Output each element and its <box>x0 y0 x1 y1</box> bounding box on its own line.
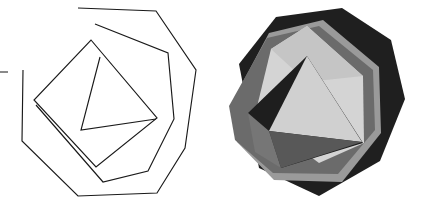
outer-heptagon <box>22 8 196 196</box>
polygon-figure-pair <box>0 0 423 218</box>
shaded-canvas <box>211 0 423 218</box>
shaded-polygon-figure <box>211 0 423 218</box>
middle-hexagon <box>36 24 174 182</box>
inner-triangle <box>81 57 156 130</box>
wireframe-polygon-figure <box>0 0 212 218</box>
inner-diamond <box>34 40 157 167</box>
wireframe-canvas <box>0 0 212 218</box>
